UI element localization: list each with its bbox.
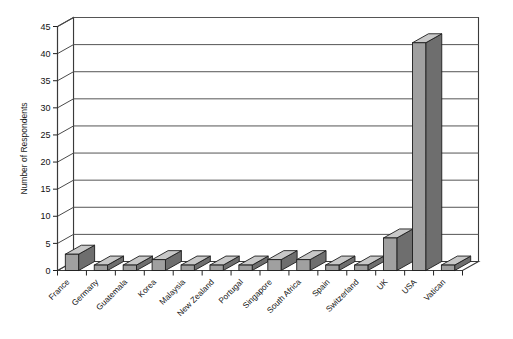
left-wall bbox=[58, 18, 74, 271]
bar-front-face bbox=[384, 238, 397, 271]
y-tick-label: 35 bbox=[40, 76, 50, 86]
y-axis-title-text: Number of Respondents bbox=[19, 102, 29, 194]
bar-front-face bbox=[297, 260, 310, 271]
bar-side-face bbox=[426, 34, 442, 271]
bar bbox=[384, 229, 413, 271]
bar-front-face bbox=[326, 265, 339, 270]
bar-chart: 051015202530354045 FranceGermanyGuatemal… bbox=[0, 0, 513, 339]
bar-front-face bbox=[210, 265, 223, 270]
bar-front-face bbox=[65, 254, 78, 270]
bar-front-face bbox=[412, 43, 425, 271]
y-tick-label: 5 bbox=[45, 239, 50, 249]
bar-front-face bbox=[123, 265, 136, 270]
y-tick-label: 30 bbox=[40, 103, 50, 113]
y-tick-label: 10 bbox=[40, 211, 50, 221]
bar-front-face bbox=[355, 265, 368, 270]
y-tick-label: 0 bbox=[45, 266, 50, 276]
bar-front-face bbox=[94, 265, 107, 270]
y-axis-title: Number of Respondents bbox=[19, 102, 29, 194]
bar-front-face bbox=[181, 265, 194, 270]
bar-front-face bbox=[441, 265, 454, 270]
bar-front-face bbox=[152, 260, 165, 271]
y-tick-label: 45 bbox=[40, 22, 50, 32]
bar bbox=[412, 34, 441, 271]
y-tick-label: 40 bbox=[40, 49, 50, 59]
y-tick-label: 20 bbox=[40, 157, 50, 167]
chart-container: 051015202530354045 FranceGermanyGuatemal… bbox=[0, 0, 513, 339]
bar-front-face bbox=[239, 265, 252, 270]
y-tick-label: 25 bbox=[40, 130, 50, 140]
y-tick-label: 15 bbox=[40, 184, 50, 194]
bar-front-face bbox=[268, 260, 281, 271]
